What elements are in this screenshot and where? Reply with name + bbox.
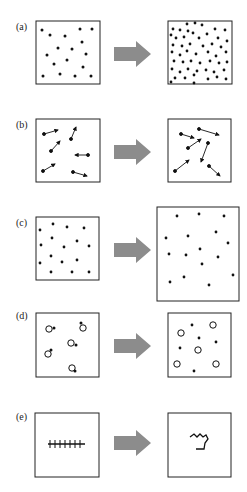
arrow-b bbox=[114, 139, 151, 165]
arrow-d bbox=[114, 333, 151, 359]
box-e-after bbox=[168, 413, 231, 477]
panel-a: (a) bbox=[16, 21, 232, 84]
box-a-before bbox=[36, 21, 100, 84]
panel-c: (c) bbox=[16, 207, 239, 301]
box-d-before bbox=[36, 313, 99, 377]
panel-a-label: (a) bbox=[16, 21, 27, 33]
panel-d-label: (d) bbox=[16, 310, 28, 322]
arrow-a bbox=[114, 41, 151, 67]
box-b-before bbox=[36, 119, 100, 182]
arrow-c bbox=[114, 237, 151, 263]
arrow-e bbox=[114, 430, 151, 456]
panel-e-label: (e) bbox=[16, 411, 27, 423]
entropy-diagram: (a) bbox=[0, 0, 247, 492]
panel-c-label: (c) bbox=[16, 217, 27, 229]
box-e-before bbox=[35, 413, 99, 477]
box-a-after bbox=[168, 21, 232, 84]
panel-b: (b) bbox=[16, 119, 231, 182]
panel-b-label: (b) bbox=[16, 119, 28, 131]
panel-e: (e) bbox=[16, 411, 231, 477]
panel-d: (d) bbox=[16, 310, 231, 377]
